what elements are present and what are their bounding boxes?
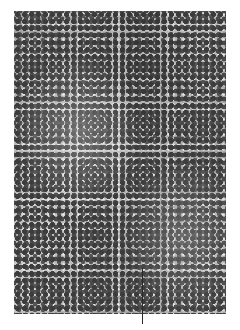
histology-micrograph	[14, 11, 226, 314]
annotation-leader-line	[142, 268, 143, 324]
